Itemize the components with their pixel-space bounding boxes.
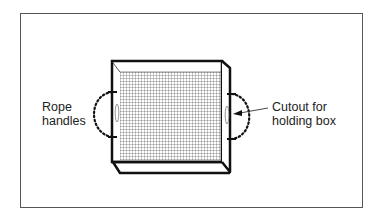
left-cutout-icon [115,104,119,122]
rope-handles-label-line1: Rope [42,100,86,114]
screen-mesh [120,72,221,160]
cutout-label: Cutout for holding box [272,100,336,128]
rope-handles-label-line2: handles [42,114,86,128]
left-rope-handle-icon [94,92,117,137]
cutout-leader-arrow-icon [233,108,268,116]
cutout-label-line1: Cutout for [272,100,336,114]
diagram-canvas: Rope handles Cutout for holding box [0,0,383,221]
box-bottom-slab [112,162,230,173]
box-inner-bevel [113,63,222,72]
rope-handles-label: Rope handles [42,100,86,128]
cutout-label-line2: holding box [272,114,336,128]
right-cutout-icon [225,106,229,124]
